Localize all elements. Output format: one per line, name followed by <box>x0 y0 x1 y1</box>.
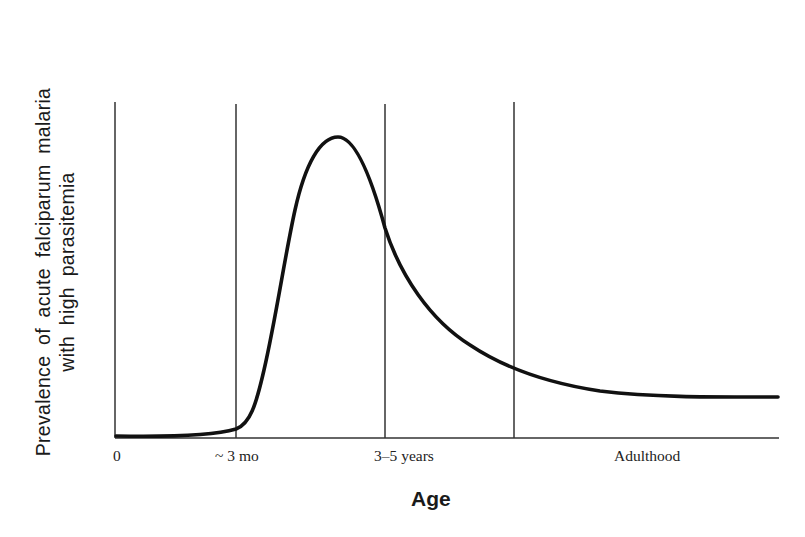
x-tick-adulthood: Adulthood <box>614 447 680 465</box>
prevalence-curve <box>116 137 778 436</box>
y-axis-label: Prevalence of acute falciparum malaria w… <box>0 0 110 537</box>
x-tick-0: 0 <box>113 447 121 465</box>
x-tick-3mo: ~ 3 mo <box>215 447 259 465</box>
x-tick-3-5-years: 3–5 years <box>374 447 434 465</box>
x-axis-label: Age <box>411 487 451 511</box>
y-axis-label-line1: Prevalence of acute falciparum malaria <box>31 88 55 456</box>
y-axis-label-line2: with high parasitemia <box>55 88 79 456</box>
